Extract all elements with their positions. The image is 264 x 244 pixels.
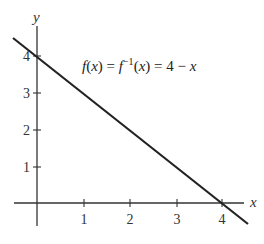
- y-axis-label: y: [31, 9, 40, 25]
- y-tick-label-3: 3: [23, 86, 30, 101]
- x-tick-label-3: 3: [174, 212, 181, 227]
- x-tick-label-4: 4: [219, 212, 226, 227]
- x-tick-label-2: 2: [127, 212, 134, 227]
- x-axis-label: x: [249, 194, 257, 210]
- y-tick-label-2: 2: [23, 123, 30, 138]
- function-annotation: f(x) = f−1(x) = 4 − x: [82, 56, 197, 75]
- y-tick-label-1: 1: [23, 160, 30, 175]
- chart: 1 2 3 4 1 2 3 4 x y f(x) = f−1(x) = 4 − …: [0, 0, 264, 244]
- x-tick-label-1: 1: [81, 212, 88, 227]
